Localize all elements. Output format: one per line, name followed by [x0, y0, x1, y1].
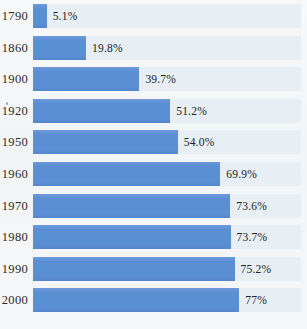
bar-fill: [33, 67, 139, 91]
value-label: 51.2%: [176, 99, 207, 123]
bar-track: [33, 99, 301, 123]
bar-fill: [33, 162, 220, 186]
scan-artifact-speck: [6, 102, 8, 105]
bar-fill: [33, 130, 178, 154]
value-label: 69.9%: [226, 162, 257, 186]
bar-fill: [33, 4, 47, 28]
value-label: 5.1%: [53, 4, 78, 28]
value-label: 77%: [245, 288, 267, 312]
bar-fill: [33, 194, 230, 218]
bar-row: 200077%: [0, 288, 307, 312]
value-label: 19.8%: [92, 36, 123, 60]
bar-fill: [33, 288, 239, 312]
category-label: 1970: [0, 194, 28, 218]
bar-row: 190039.7%: [0, 67, 307, 91]
bar-fill: [33, 36, 86, 60]
category-label: 1990: [0, 257, 28, 281]
value-label: 73.6%: [236, 194, 267, 218]
bar-row: 17905.1%: [0, 4, 307, 28]
category-label: 1900: [0, 67, 28, 91]
bar-row: 186019.8%: [0, 36, 307, 60]
category-label: 1920: [0, 99, 28, 123]
bar-row: 192051.2%: [0, 99, 307, 123]
category-label: 2000: [0, 288, 28, 312]
value-label: 73.7%: [237, 225, 268, 249]
category-label: 1980: [0, 225, 28, 249]
bar-fill: [33, 99, 170, 123]
value-label: 54.0%: [184, 130, 215, 154]
category-label: 1960: [0, 162, 28, 186]
value-label: 75.2%: [241, 257, 272, 281]
category-label: 1860: [0, 36, 28, 60]
value-label: 39.7%: [145, 67, 176, 91]
category-label: 1790: [0, 4, 28, 28]
bar-row: 196069.9%: [0, 162, 307, 186]
bar-fill: [33, 257, 235, 281]
bar-fill: [33, 225, 231, 249]
category-label: 1950: [0, 130, 28, 154]
bar-track: [33, 36, 301, 60]
bar-rows-container: 17905.1%186019.8%190039.7%192051.2%19505…: [0, 0, 307, 329]
bar-row: 198073.7%: [0, 225, 307, 249]
bar-row: 199075.2%: [0, 257, 307, 281]
bar-row: 195054.0%: [0, 130, 307, 154]
bar-row: 197073.6%: [0, 194, 307, 218]
bar-chart: 17905.1%186019.8%190039.7%192051.2%19505…: [0, 0, 307, 329]
bar-track: [33, 162, 301, 186]
bar-track: [33, 130, 301, 154]
